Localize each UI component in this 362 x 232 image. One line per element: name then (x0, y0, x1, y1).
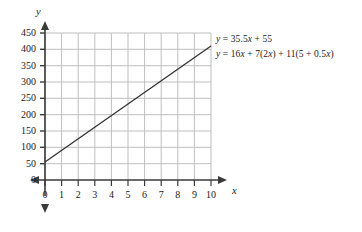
equation-annotations: y = 35.5x + 55 y = 16x + 7(2x) + 11(5 + … (216, 32, 362, 61)
equation-2-part4: ) (331, 49, 334, 59)
equation-2-part2: + 7(2 (245, 49, 268, 59)
x-axis-label: x (232, 186, 237, 197)
x-tick-label-10: 10 (201, 190, 221, 200)
y-tick-label-50: 50 (2, 159, 36, 169)
y-axis-label: y (36, 7, 41, 18)
equation-2-part3: ) + 11(5 + 0.5 (272, 49, 326, 59)
equation-1-eq: = 35.5 (220, 34, 247, 44)
y-tick-label-150: 150 (2, 126, 36, 136)
y-tick-label-400: 400 (2, 44, 36, 54)
grid-lines-vertical (45, 33, 211, 180)
y-tick-label-250: 250 (2, 93, 36, 103)
y-tick-label-200: 200 (2, 110, 36, 120)
linear-graph-figure: 450 400 350 300 250 200 150 100 50 0 0 1… (0, 0, 362, 232)
y-tick-label-350: 350 (2, 61, 36, 71)
equation-simplified: y = 35.5x + 55 (216, 32, 362, 47)
equation-2-part1: = 16 (220, 49, 240, 59)
y-tick-label-100: 100 (2, 142, 36, 152)
y-tick-label-300: 300 (2, 77, 36, 87)
equation-1-rhs: + 55 (252, 34, 272, 44)
y-tick-label-0: 0 (2, 175, 36, 185)
equation-expanded: y = 16x + 7(2x) + 11(5 + 0.5x) (216, 47, 362, 62)
y-tick-label-450: 450 (2, 28, 36, 38)
x-axis-ticks (45, 180, 211, 186)
